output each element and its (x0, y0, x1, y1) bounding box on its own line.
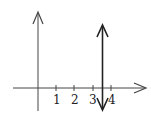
tick-label-3: 3 (89, 93, 97, 107)
tick-label-1: 1 (53, 93, 61, 107)
x-axis: 1 2 3 4 (13, 83, 146, 107)
vertical-line-x-3-5 (97, 25, 108, 110)
graph: 1 2 3 4 (0, 0, 151, 129)
tick-label-2: 2 (71, 93, 79, 107)
y-axis (33, 12, 43, 111)
tick-label-4: 4 (108, 93, 116, 107)
